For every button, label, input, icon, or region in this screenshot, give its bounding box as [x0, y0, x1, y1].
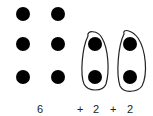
circled-pair-1 [82, 32, 108, 90]
label-plus-2: + [110, 103, 116, 115]
dot [88, 37, 102, 51]
label-two-1: 2 [93, 103, 99, 115]
circled-pair-2 [118, 31, 146, 92]
dot [51, 7, 65, 21]
label-two-2: 2 [127, 103, 133, 115]
dot [123, 70, 137, 84]
dot [16, 70, 30, 84]
dot-diagram [0, 0, 153, 116]
dot [51, 37, 65, 51]
grid-of-six-dots [16, 7, 65, 84]
dot [88, 70, 102, 84]
dot [123, 37, 137, 51]
dot [16, 7, 30, 21]
dot [16, 37, 30, 51]
label-six: 6 [37, 103, 43, 115]
dot [51, 70, 65, 84]
label-plus-1: + [77, 103, 83, 115]
